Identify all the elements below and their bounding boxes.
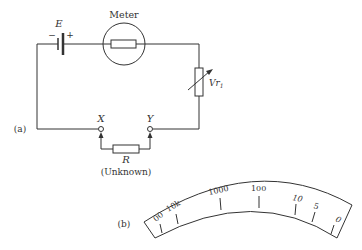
battery-label: E: [54, 18, 63, 29]
panel-b-label: (b): [118, 219, 131, 229]
terminal-y-label: Y: [147, 113, 155, 124]
scale-tick-label: 0: [334, 215, 342, 225]
battery-icon: [58, 33, 63, 55]
circuit-diagram: E − + Meter Vr1 X Y R (Unknown) (a): [0, 0, 362, 250]
battery-plus-label: +: [66, 30, 74, 40]
unknown-caption: (Unknown): [101, 167, 152, 177]
panel-a-label: (a): [14, 124, 26, 134]
scale-tick-label: 5: [312, 201, 320, 211]
meter-label: Meter: [109, 9, 139, 20]
terminal-y: [148, 127, 153, 132]
variable-resistor-label: Vr1: [209, 78, 224, 89]
battery-minus-label: −: [48, 30, 56, 40]
scale-tick-label: 10: [292, 193, 304, 204]
unknown-resistor-icon: [99, 132, 153, 153]
circuit-wires: [37, 44, 199, 129]
unknown-resistor-label: R: [121, 154, 130, 165]
scale-tick-label: 10k: [165, 198, 183, 213]
terminal-x-label: X: [96, 113, 105, 124]
scale-tick-label: 100: [251, 184, 266, 193]
meter-icon: [103, 23, 145, 65]
scale-tick-label: 00: [152, 210, 166, 223]
terminal-x: [99, 127, 104, 132]
scale-tick-label: 1000: [208, 184, 230, 197]
